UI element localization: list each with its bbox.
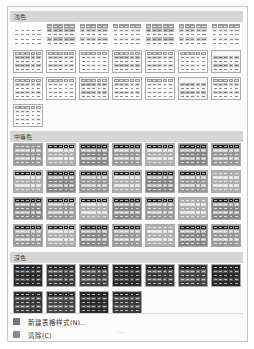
table-style-thumbnail[interactable]: [178, 197, 208, 220]
table-style-thumbnail[interactable]: [211, 197, 241, 220]
table-style-thumbnail[interactable]: [13, 264, 43, 287]
table-style-thumbnail[interactable]: [211, 23, 241, 46]
section-header-dark: 深色: [10, 252, 243, 263]
table-style-thumbnail[interactable]: [112, 170, 142, 193]
table-style-thumbnail[interactable]: [211, 50, 241, 73]
table-style-thumbnail[interactable]: [79, 224, 109, 247]
table-style-thumbnail[interactable]: [178, 23, 208, 46]
table-style-thumbnail[interactable]: [145, 77, 175, 100]
table-style-thumbnail[interactable]: [13, 143, 43, 166]
table-style-thumbnail[interactable]: [79, 197, 109, 220]
table-style-thumbnail[interactable]: [79, 50, 109, 73]
table-style-thumbnail[interactable]: [145, 197, 175, 220]
table-style-thumbnail[interactable]: [112, 23, 142, 46]
table-style-thumbnail[interactable]: [46, 197, 76, 220]
table-style-thumbnail[interactable]: [211, 170, 241, 193]
table-style-thumbnail[interactable]: [145, 50, 175, 73]
medium-styles-grid: [13, 143, 245, 251]
table-style-thumbnail[interactable]: [211, 264, 241, 287]
style-row: [13, 143, 245, 167]
style-row: [13, 50, 245, 74]
table-style-thumbnail[interactable]: [145, 143, 175, 166]
table-style-thumbnail[interactable]: [211, 77, 241, 100]
table-style-thumbnail[interactable]: [178, 224, 208, 247]
table-style-thumbnail[interactable]: [79, 143, 109, 166]
table-style-thumbnail[interactable]: [13, 291, 43, 314]
section-header-light: 浅色: [10, 11, 243, 22]
style-row: [13, 224, 245, 248]
table-style-thumbnail[interactable]: [13, 77, 43, 100]
clear-label: 清除(C): [28, 330, 52, 340]
clear-icon: [13, 331, 20, 338]
table-style-thumbnail[interactable]: [13, 170, 43, 193]
table-style-thumbnail[interactable]: [46, 291, 76, 314]
table-style-thumbnail[interactable]: [211, 143, 241, 166]
style-row: [13, 197, 245, 221]
table-style-thumbnail[interactable]: [13, 23, 43, 46]
new-table-style-icon: [13, 318, 20, 325]
table-style-thumbnail[interactable]: [145, 23, 175, 46]
table-style-thumbnail[interactable]: [13, 104, 43, 127]
table-style-thumbnail[interactable]: [46, 50, 76, 73]
divider: [10, 313, 243, 314]
table-style-thumbnail[interactable]: [145, 264, 175, 287]
table-style-thumbnail[interactable]: [79, 77, 109, 100]
table-style-thumbnail[interactable]: [145, 224, 175, 247]
table-style-thumbnail[interactable]: [46, 143, 76, 166]
table-style-thumbnail[interactable]: [79, 170, 109, 193]
table-style-thumbnail[interactable]: [46, 77, 76, 100]
style-row: [13, 104, 245, 128]
table-style-thumbnail[interactable]: [112, 224, 142, 247]
table-style-thumbnail[interactable]: [145, 170, 175, 193]
table-style-thumbnail[interactable]: [46, 264, 76, 287]
table-style-thumbnail[interactable]: [178, 50, 208, 73]
table-style-thumbnail[interactable]: [13, 224, 43, 247]
table-style-thumbnail[interactable]: [13, 197, 43, 220]
new-table-style-label: 新建表格样式(N)...: [28, 317, 86, 327]
clear-menu-item[interactable]: 清除(C): [10, 328, 243, 341]
style-row: [13, 291, 245, 315]
table-style-thumbnail[interactable]: [79, 264, 109, 287]
table-style-thumbnail[interactable]: [112, 291, 142, 314]
resize-grip[interactable]: ....: [118, 328, 124, 334]
table-style-thumbnail[interactable]: [13, 50, 43, 73]
table-style-thumbnail[interactable]: [79, 291, 109, 314]
style-row: [13, 264, 245, 288]
table-style-thumbnail[interactable]: [112, 77, 142, 100]
table-style-thumbnail[interactable]: [178, 77, 208, 100]
table-style-thumbnail[interactable]: [112, 197, 142, 220]
light-styles-grid: [13, 23, 245, 131]
section-header-medium: 中等色: [10, 131, 243, 142]
style-row: [13, 23, 245, 47]
style-row: [13, 170, 245, 194]
table-style-thumbnail[interactable]: [178, 143, 208, 166]
table-style-thumbnail[interactable]: [46, 170, 76, 193]
table-styles-gallery: 浅色 中等色 深色 新建表格样式(N)... 清除(C): [7, 6, 248, 342]
table-style-thumbnail[interactable]: [46, 23, 76, 46]
table-style-thumbnail[interactable]: [79, 23, 109, 46]
style-row: [13, 77, 245, 101]
table-style-thumbnail[interactable]: [112, 50, 142, 73]
dark-styles-grid: [13, 264, 245, 318]
table-style-thumbnail[interactable]: [178, 264, 208, 287]
table-style-thumbnail[interactable]: [112, 264, 142, 287]
table-style-thumbnail[interactable]: [112, 143, 142, 166]
table-style-thumbnail[interactable]: [178, 170, 208, 193]
new-table-style-menu-item[interactable]: 新建表格样式(N)...: [10, 315, 243, 328]
table-style-thumbnail[interactable]: [46, 224, 76, 247]
table-style-thumbnail[interactable]: [211, 224, 241, 247]
